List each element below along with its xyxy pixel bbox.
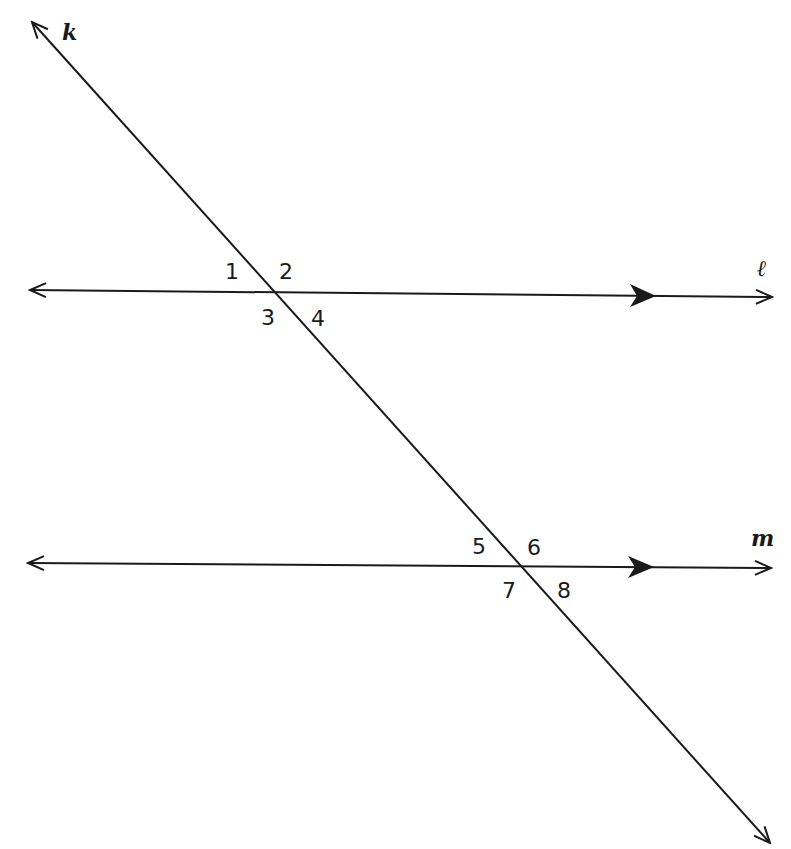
parallel-lines-diagram: k ℓ m 1 2 3 4 5 6 7 8 xyxy=(0,0,791,849)
angle-1-label: 1 xyxy=(225,259,239,284)
label-line-m: m xyxy=(751,525,774,551)
label-line-k: k xyxy=(62,19,77,45)
angle-7-label: 7 xyxy=(502,578,516,603)
line-l xyxy=(30,284,772,307)
line-m xyxy=(28,556,771,578)
angle-2-label: 2 xyxy=(279,259,293,284)
angle-5-label: 5 xyxy=(472,534,486,559)
label-line-l: ℓ xyxy=(757,255,766,281)
line-k xyxy=(32,22,770,843)
angle-3-label: 3 xyxy=(261,305,275,330)
angle-4-label: 4 xyxy=(311,306,325,331)
angle-8-label: 8 xyxy=(557,578,571,603)
angle-6-label: 6 xyxy=(527,535,541,560)
